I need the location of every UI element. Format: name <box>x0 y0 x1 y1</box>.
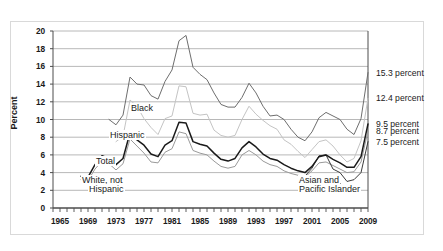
x-tick-label: 1989 <box>213 216 243 226</box>
y-tick-label: 6 <box>27 150 45 160</box>
y-tick-label: 14 <box>27 79 45 89</box>
x-tick-label: 2005 <box>325 216 355 226</box>
series-annotation: Pacific Islander <box>298 184 361 194</box>
series-annotation: Total <box>95 156 116 166</box>
y-tick-label: 12 <box>27 97 45 107</box>
series-annotation: Asian and <box>298 175 340 185</box>
x-tick-label: 1973 <box>101 216 131 226</box>
y-tick-label: 4 <box>27 168 45 178</box>
x-tick-label: 2001 <box>297 216 327 226</box>
x-tick-label: 2009 <box>353 216 383 226</box>
series-annotation: Hispanic <box>88 184 125 194</box>
chart-figure: Percent 02468101214161820 19651969197319… <box>0 0 443 251</box>
y-tick-label: 16 <box>27 61 45 71</box>
x-tick-label: 1985 <box>185 216 215 226</box>
end-value-label: 15.3 percent <box>376 68 424 78</box>
x-tick-label: 1977 <box>129 216 159 226</box>
end-value-label: 8.7 percent <box>376 126 419 136</box>
y-tick-label: 0 <box>27 203 45 213</box>
data-series-lines <box>81 35 368 181</box>
x-tick-label: 1965 <box>45 216 75 226</box>
series-annotation: Hispanic <box>109 130 146 140</box>
y-tick-label: 2 <box>27 185 45 195</box>
x-tick-label: 1997 <box>269 216 299 226</box>
y-tick-label: 20 <box>27 26 45 36</box>
x-axis-ticks <box>53 208 368 212</box>
y-tick-label: 10 <box>27 115 45 125</box>
x-tick-label: 1981 <box>157 216 187 226</box>
end-value-label: 7.5 percent <box>376 137 419 147</box>
x-tick-label: 1993 <box>241 216 271 226</box>
series-annotation: White, not <box>81 175 124 185</box>
x-tick-label: 1969 <box>73 216 103 226</box>
series-annotation: Black <box>130 103 154 113</box>
series-line <box>109 35 368 140</box>
y-tick-label: 8 <box>27 132 45 142</box>
end-value-label: 12.4 percent <box>376 93 424 103</box>
y-tick-label: 18 <box>27 44 45 54</box>
